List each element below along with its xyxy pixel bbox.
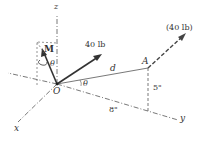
moment-curl-icon <box>38 60 47 65</box>
theta-arc <box>80 80 81 86</box>
force-label: 40 lb <box>85 41 105 49</box>
moment-label: M <box>44 45 54 54</box>
y-axis-label: y <box>180 114 185 123</box>
theta-label-1: θ <box>50 60 55 68</box>
force-at-a-label: (40 lb) <box>166 24 193 32</box>
moment-arrow <box>44 53 57 84</box>
x-axis-label: x <box>14 124 19 133</box>
z-axis-label: z <box>54 3 58 11</box>
force-arrow <box>57 57 98 84</box>
diagram-drawing <box>0 0 206 143</box>
statics-diagram: z x y O A 40 lb (40 lb) M θ θ d 5" 8" <box>0 0 206 143</box>
dimension-8-label: 8" <box>109 106 118 114</box>
axis-extension-line <box>8 73 57 84</box>
dimension-5-label: 5" <box>153 84 162 92</box>
origin-label: O <box>53 87 60 96</box>
distance-label: d <box>110 64 116 73</box>
theta-label-2: θ <box>83 80 88 88</box>
x-axis-line <box>18 84 57 122</box>
point-a-label: A <box>142 57 149 66</box>
force-at-A-arrow <box>148 36 183 68</box>
line-d <box>57 68 148 84</box>
origin-point <box>56 83 59 86</box>
